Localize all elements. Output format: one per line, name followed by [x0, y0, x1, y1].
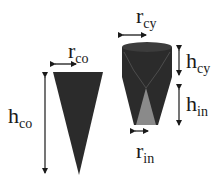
label-main: h	[186, 91, 197, 116]
cone-height-label: hco	[8, 105, 32, 131]
label-sub: co	[75, 51, 88, 66]
cylinder-radius-label: rcy	[136, 5, 157, 31]
cylinder-cone-shape	[122, 42, 172, 125]
cone-shape	[53, 72, 103, 175]
label-sub: in	[197, 104, 208, 119]
label-sub: cy	[143, 16, 156, 31]
inner-radius-label: rin	[136, 140, 154, 166]
label-sub: in	[143, 151, 154, 166]
cone-radius-label: rco	[68, 40, 89, 66]
label-main: h	[186, 48, 197, 73]
inner-height-label: hin	[186, 93, 208, 119]
label-main: h	[8, 103, 19, 128]
label-sub: co	[19, 116, 32, 131]
label-sub: cy	[197, 61, 210, 76]
cylinder-height-label: hcy	[186, 50, 210, 76]
